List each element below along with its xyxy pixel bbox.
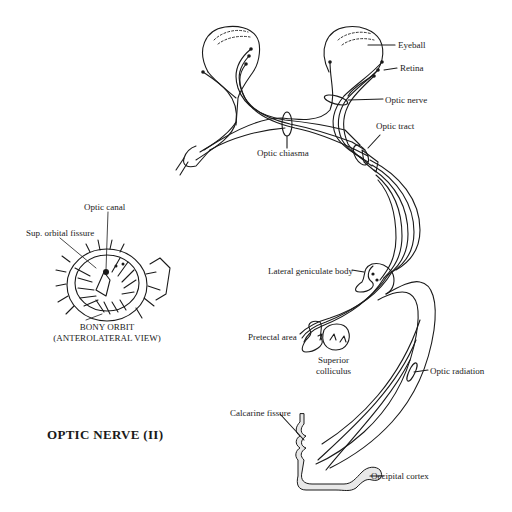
label-lateral-geniculate-body: Lateral geniculate body [268,266,353,276]
lateral-geniculate-body [356,263,394,294]
label-superior-colliculus-line1: Superior [318,355,349,365]
left-eyeball [201,26,259,125]
label-optic-radiation: Optic radiation [430,366,484,376]
radiation-fibers [318,320,420,470]
pretectal-fibers [300,272,392,342]
label-calcarine-fissure: Calcarine fissure [230,408,291,418]
pretectal-area-shape [302,321,322,352]
label-optic-chiasma: Optic chiasma [257,148,309,158]
superior-colliculus-shape [323,324,350,350]
label-superior-colliculus-line2: colliculus [316,366,351,376]
label-pretectal-area: Pretectal area [248,332,297,342]
label-optic-nerve: Optic nerve [385,95,427,105]
label-optic-canal: Optic canal [84,202,125,212]
label-sup-orbital-fissure: Sup. orbital fissure [26,228,94,238]
inset-caption-line2: (ANTEROLATERAL VIEW) [53,333,161,343]
label-eyeball: Eyeball [398,40,426,50]
right-eyeball [324,27,384,96]
diagram-title: OPTIC NERVE (II) [47,427,163,443]
label-retina: Retina [400,63,424,73]
optic-tract-bundle [362,150,420,280]
label-occipital-cortex: Occipital cortex [371,471,429,481]
inset-caption-line1: BONY ORBIT [80,322,134,332]
leader-lines [280,45,428,476]
label-optic-tract: Optic tract [376,121,414,131]
